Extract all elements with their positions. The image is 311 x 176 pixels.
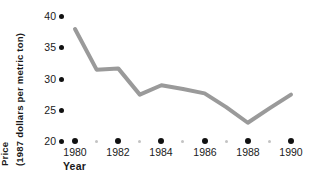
price-series-line (75, 29, 291, 123)
price-vs-year-line-chart: Price (1987 dollars per metric ton) 40 3… (0, 0, 311, 176)
series-svg (0, 0, 311, 176)
plot-area (0, 0, 311, 176)
